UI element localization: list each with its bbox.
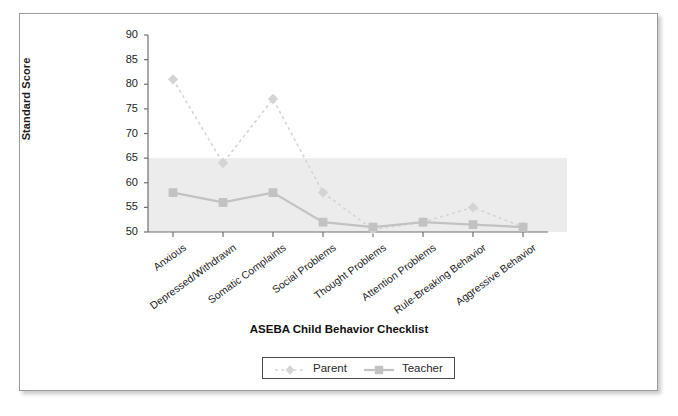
y-tick-label: 55 bbox=[112, 200, 138, 212]
y-tick-label: 50 bbox=[112, 225, 138, 237]
legend-entry-teacher: Teacher bbox=[363, 362, 443, 374]
data-point bbox=[519, 223, 528, 232]
data-point bbox=[369, 223, 378, 232]
y-tick-label: 85 bbox=[112, 53, 138, 65]
y-tick-label: 90 bbox=[112, 28, 138, 40]
chart-plot-area bbox=[0, 0, 678, 416]
data-point bbox=[319, 218, 328, 227]
legend-entry-parent: Parent bbox=[274, 362, 347, 374]
y-tick-label: 60 bbox=[112, 176, 138, 188]
data-point bbox=[169, 188, 178, 197]
data-point bbox=[219, 198, 228, 207]
legend-label: Parent bbox=[313, 362, 347, 374]
x-axis-title: ASEBA Child Behavior Checklist bbox=[0, 323, 678, 335]
data-point bbox=[469, 220, 478, 229]
y-tick-label: 65 bbox=[112, 151, 138, 163]
legend-swatch-square-icon bbox=[363, 362, 395, 374]
legend-label: Teacher bbox=[402, 362, 443, 374]
data-point bbox=[168, 74, 178, 84]
y-tick-label: 80 bbox=[112, 77, 138, 89]
legend-swatch-diamond-icon bbox=[274, 362, 306, 374]
x-axis-ticks bbox=[173, 232, 523, 237]
shaded-band bbox=[148, 158, 567, 232]
y-tick-label: 75 bbox=[112, 102, 138, 114]
y-axis-title: Standard Score bbox=[20, 39, 32, 159]
data-point bbox=[419, 218, 428, 227]
y-tick-label: 70 bbox=[112, 127, 138, 139]
data-point bbox=[269, 188, 278, 197]
chart-legend: ParentTeacher bbox=[262, 357, 455, 379]
